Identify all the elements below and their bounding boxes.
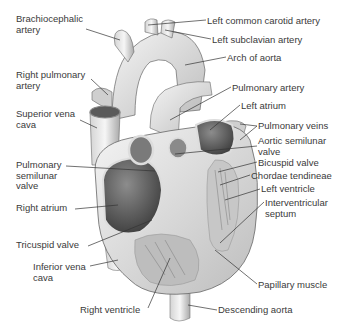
label-interventricular-septum: Interventricular septum bbox=[265, 198, 328, 219]
label-papillary-muscle: Papillary muscle bbox=[258, 280, 327, 291]
label-left-common-carotid-artery: Left common carotid artery bbox=[207, 16, 320, 27]
label-right-atrium: Right atrium bbox=[16, 203, 67, 214]
label-right-ventricle: Right ventricle bbox=[80, 305, 140, 316]
label-right-pulmonary-artery: Right pulmonary artery bbox=[16, 70, 85, 91]
label-arch-of-aorta: Arch of aorta bbox=[227, 53, 281, 64]
label-inferior-vena-cava: Inferior vena cava bbox=[33, 262, 86, 283]
label-pulmonary-veins: Pulmonary veins bbox=[258, 121, 328, 132]
label-left-ventricle: Left ventricle bbox=[261, 184, 315, 195]
label-pulmonary-artery: Pulmonary artery bbox=[232, 83, 304, 94]
label-pulmonary-semilunar-valve: Pulmonary semilunar valve bbox=[16, 160, 61, 192]
label-bicuspid-valve: Bicuspid valve bbox=[258, 158, 319, 169]
label-left-atrium: Left atrium bbox=[241, 101, 286, 112]
label-descending-aorta: Descending aorta bbox=[218, 305, 292, 316]
label-aortic-semilunar-valve: Aortic semilunar valve bbox=[258, 136, 326, 157]
label-left-subclavian-artery: Left subclavian artery bbox=[212, 35, 302, 46]
heart-diagram: Brachiocephalic artery Right pulmonary a… bbox=[0, 0, 347, 329]
label-tricuspid-valve: Tricuspid valve bbox=[16, 240, 79, 251]
label-superior-vena-cava: Superior vena cava bbox=[16, 109, 75, 130]
label-brachiocephalic-artery: Brachiocephalic artery bbox=[16, 14, 83, 35]
label-chordae-tendineae: Chordae tendineae bbox=[251, 171, 332, 182]
